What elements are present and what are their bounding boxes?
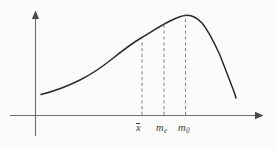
median-symbol: m <box>156 122 164 133</box>
distribution-figure: x me m0 <box>0 0 275 149</box>
axis-label-mean: x <box>136 122 141 134</box>
y-axis-arrow-icon <box>32 11 39 20</box>
mode-subscript: 0 <box>186 127 190 135</box>
median-subscript: e <box>164 127 167 135</box>
x-axis-arrow-icon <box>255 112 264 119</box>
mode-symbol: m <box>178 122 186 133</box>
axis-label-median: me <box>156 123 167 134</box>
axis-label-mode: m0 <box>178 123 189 134</box>
distribution-curve <box>41 15 236 98</box>
mean-symbol: x <box>136 122 141 134</box>
